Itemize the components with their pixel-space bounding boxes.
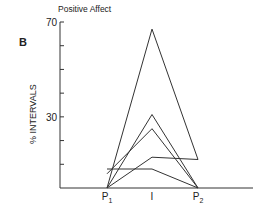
series-line-subject-1	[107, 29, 198, 188]
y-tick-label: 70	[46, 17, 58, 28]
chart: B Positive Affect % INTERVALS 3070 P1IP2	[0, 0, 267, 210]
x-tick-label: I	[151, 191, 154, 202]
x-tick-label: P1	[102, 191, 113, 204]
x-tick-label: P2	[193, 191, 204, 204]
series-line-subject-4	[107, 157, 198, 188]
series-line-subject-2	[107, 115, 198, 189]
y-tick-label: 30	[46, 112, 58, 123]
y-axis-label: % INTERVALS	[28, 84, 38, 144]
chart-title: Positive Affect	[58, 4, 112, 14]
panel-label: B	[19, 36, 27, 48]
